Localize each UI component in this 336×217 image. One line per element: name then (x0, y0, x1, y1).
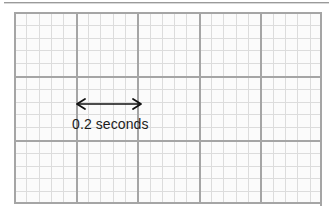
header-rule-shadow (4, 3, 329, 4)
ecg-grid-paper (14, 12, 322, 204)
grid-bottom-edge (14, 202, 322, 204)
measure-label: 0.2 seconds (72, 115, 192, 133)
ecg-grid-figure: 0.2 seconds (0, 0, 336, 217)
grid-right-edge (320, 12, 322, 206)
double-headed-arrow-icon (74, 96, 144, 112)
